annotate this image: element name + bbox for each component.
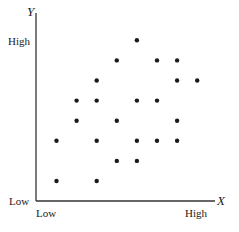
data-point	[195, 78, 199, 82]
data-point	[155, 98, 159, 102]
data-point	[155, 139, 159, 143]
data-point	[95, 139, 99, 143]
data-point	[74, 98, 78, 102]
y-high-tick-label: High	[8, 36, 30, 47]
data-points	[54, 38, 199, 183]
data-point	[135, 159, 139, 163]
data-point	[175, 119, 179, 123]
data-point	[95, 78, 99, 82]
y-axis-label: Y	[27, 5, 34, 18]
data-point	[74, 119, 78, 123]
data-point	[135, 139, 139, 143]
data-point	[54, 139, 58, 143]
y-low-tick-label: Low	[9, 196, 29, 207]
data-point	[95, 98, 99, 102]
data-point	[135, 38, 139, 42]
data-point	[175, 58, 179, 62]
data-point	[95, 179, 99, 183]
data-point	[115, 119, 119, 123]
data-point	[115, 159, 119, 163]
x-low-tick-label: Low	[36, 208, 56, 219]
data-point	[175, 78, 179, 82]
data-point	[175, 139, 179, 143]
data-point	[115, 58, 119, 62]
data-point	[54, 179, 58, 183]
plot-area	[0, 0, 239, 232]
x-axis-label: X	[217, 194, 225, 207]
data-point	[135, 98, 139, 102]
x-high-tick-label: High	[185, 208, 207, 219]
scatter-chart: Y X High Low Low High	[0, 0, 239, 232]
data-point	[155, 58, 159, 62]
